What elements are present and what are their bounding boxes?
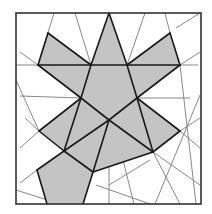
diagram-svg bbox=[0, 0, 212, 214]
geometry-diagram bbox=[0, 0, 212, 214]
